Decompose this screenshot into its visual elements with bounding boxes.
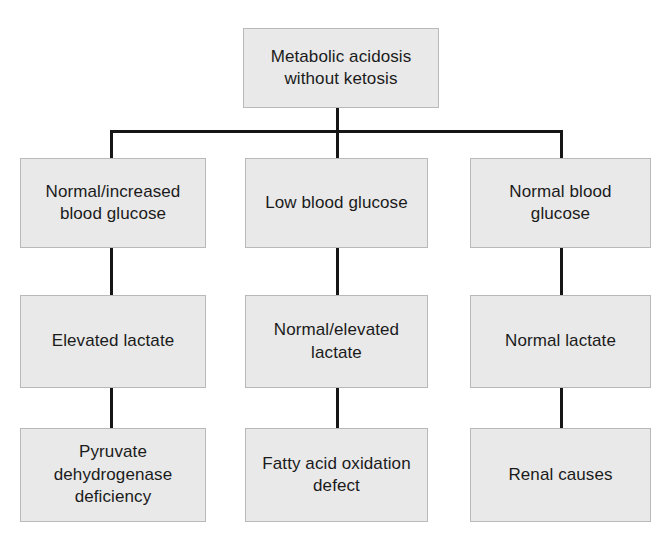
connector-left-lactate-to-diagnosis	[110, 388, 113, 429]
connector-left-glucose-to-lactate	[110, 248, 113, 296]
node-left-glucose[interactable]: Normal/increased blood glucose	[20, 158, 206, 248]
flowchart-canvas: Metabolic acidosis without ketosis Norma…	[0, 0, 670, 538]
node-left-diagnosis[interactable]: Pyruvate dehydrogenase deficiency	[20, 428, 206, 522]
connector-bus-to-middle	[336, 130, 339, 159]
node-middle-diagnosis[interactable]: Fatty acid oxidation defect	[245, 428, 428, 522]
node-right-glucose[interactable]: Normal blood glucose	[470, 158, 651, 248]
connector-root-stem	[336, 108, 339, 132]
node-root[interactable]: Metabolic acidosis without ketosis	[243, 28, 439, 108]
connector-bus-to-left	[110, 130, 113, 159]
connector-middle-glucose-to-lactate	[336, 248, 339, 296]
connector-middle-lactate-to-diagnosis	[336, 388, 339, 429]
node-middle-glucose[interactable]: Low blood glucose	[245, 158, 428, 248]
connector-right-glucose-to-lactate	[560, 248, 563, 296]
node-right-diagnosis[interactable]: Renal causes	[470, 428, 651, 522]
node-right-lactate[interactable]: Normal lactate	[470, 295, 651, 388]
connector-bus-to-right	[560, 130, 563, 159]
node-middle-lactate[interactable]: Normal/elevated lactate	[245, 295, 428, 388]
node-left-lactate[interactable]: Elevated lactate	[20, 295, 206, 388]
connector-right-lactate-to-diagnosis	[560, 388, 563, 429]
